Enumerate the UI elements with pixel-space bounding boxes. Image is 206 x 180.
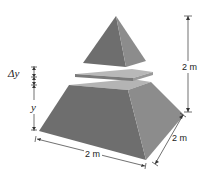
width-label: 2 m [85,149,100,159]
y-label: y [30,101,36,113]
slab [75,69,153,81]
delta-y-label: Δy [7,67,19,79]
frustum-base [39,79,184,160]
height-label: 2 m [182,62,197,72]
pyramid-diagram: Δy y 2 m 2 m 2 m [0,0,206,180]
left-dimensions [30,66,38,131]
top-pyramid [83,16,146,67]
depth-label: 2 m [172,133,187,143]
